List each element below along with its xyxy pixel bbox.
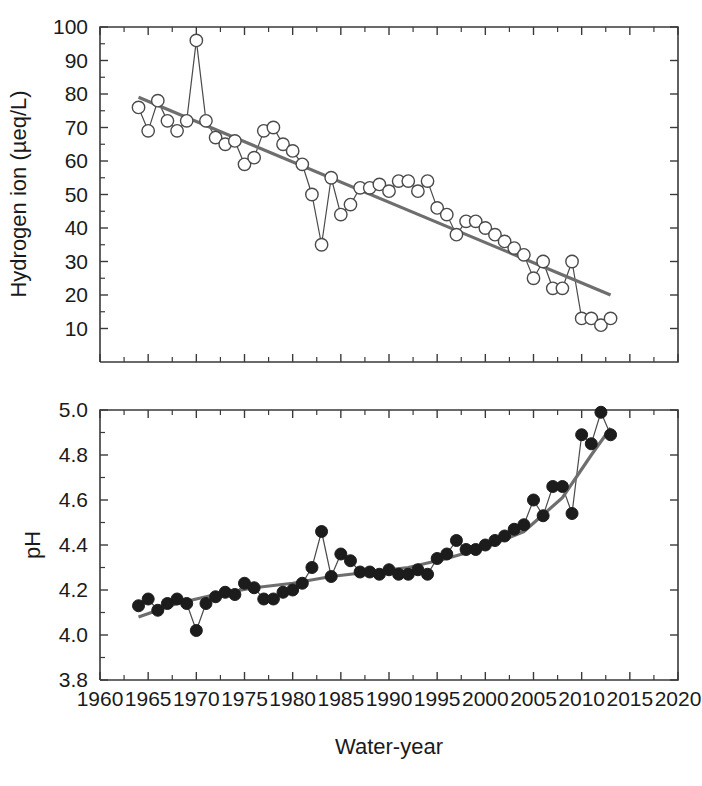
- y-tick-label: 5.0: [59, 398, 88, 421]
- x-tick-label: 1965: [125, 687, 172, 710]
- y-tick-label: 100: [53, 15, 88, 38]
- y-tick-label: 4.8: [59, 443, 88, 466]
- data-point-marker: [556, 481, 568, 493]
- y-tick-label: 90: [65, 49, 88, 72]
- y-tick-label: 4.0: [59, 623, 88, 646]
- y-tick-label: 20: [65, 283, 88, 306]
- x-tick-label: 1970: [173, 687, 220, 710]
- data-point-marker: [595, 406, 607, 418]
- data-point-marker: [527, 272, 539, 284]
- trend-bottom: [139, 428, 611, 617]
- data-point-marker: [537, 255, 549, 267]
- data-point-marker: [566, 508, 578, 520]
- x-tick-label: 2010: [558, 687, 605, 710]
- data-point-marker: [306, 562, 318, 574]
- data-point-marker: [537, 510, 549, 522]
- data-point-marker: [576, 429, 588, 441]
- data-point-marker: [325, 172, 337, 184]
- x-tick-label: 2020: [655, 687, 702, 710]
- data-point-marker: [296, 158, 308, 170]
- data-point-marker: [296, 577, 308, 589]
- trend-line: [139, 428, 611, 617]
- axis-frame: [100, 410, 678, 680]
- data-point-marker: [441, 548, 453, 560]
- panel-frame-bottom: [100, 410, 678, 680]
- data-point-marker: [181, 115, 193, 127]
- x-tick-label: 1995: [414, 687, 461, 710]
- data-point-marker: [421, 175, 433, 187]
- data-point-marker: [556, 282, 568, 294]
- data-point-marker: [200, 115, 212, 127]
- data-point-marker: [585, 438, 597, 450]
- data-point-marker: [248, 582, 260, 594]
- data-point-marker: [344, 198, 356, 210]
- x-tick-label: 1975: [221, 687, 268, 710]
- y-tick-label: 10: [65, 317, 88, 340]
- y-tick-label: 40: [65, 216, 88, 239]
- markers-bottom: [133, 406, 617, 636]
- data-point-marker: [181, 598, 193, 610]
- data-point-marker: [190, 34, 202, 46]
- y-axis-title-top: Hydrogen ion (µeq/L): [6, 90, 31, 297]
- y-tick-label: 70: [65, 116, 88, 139]
- y-axis-title-bottom: pH: [20, 531, 45, 559]
- panel-bottom: 3.84.04.24.44.64.85.01960196519701975198…: [59, 398, 702, 710]
- y-tick-label: 4.4: [59, 533, 89, 556]
- figure-container: 1020304050607080901003.84.04.24.44.64.85…: [0, 0, 702, 786]
- x-tick-label: 1980: [269, 687, 316, 710]
- y-tick-label: 50: [65, 183, 88, 206]
- markers-top: [132, 34, 616, 331]
- y-tick-label: 60: [65, 149, 88, 172]
- data-point-marker: [441, 208, 453, 220]
- x-tick-label: 1960: [77, 687, 124, 710]
- data-point-marker: [566, 255, 578, 267]
- data-point-marker: [229, 135, 241, 147]
- data-point-marker: [518, 519, 530, 531]
- data-point-marker: [402, 175, 414, 187]
- y-tick-label: 30: [65, 250, 88, 273]
- data-point-marker: [412, 185, 424, 197]
- data-point-marker: [152, 95, 164, 107]
- data-point-marker: [605, 429, 617, 441]
- data-point-marker: [306, 188, 318, 200]
- data-point-marker: [450, 229, 462, 241]
- data-point-marker: [267, 121, 279, 133]
- data-point-marker: [383, 185, 395, 197]
- y-tick-label: 4.2: [59, 578, 88, 601]
- data-point-marker: [132, 101, 144, 113]
- x-tick-label: 1990: [366, 687, 413, 710]
- x-axis-bottom: 1960196519701975198019851990199520002005…: [77, 410, 702, 710]
- data-point-marker: [142, 593, 154, 605]
- data-point-marker: [335, 208, 347, 220]
- data-point-marker: [422, 568, 434, 580]
- x-axis-title: Water-year: [335, 734, 443, 759]
- data-point-marker: [316, 526, 328, 538]
- data-point-marker: [286, 145, 298, 157]
- data-point-marker: [248, 151, 260, 163]
- data-point-marker: [171, 125, 183, 137]
- data-point-marker: [518, 249, 530, 261]
- data-point-marker: [315, 239, 327, 251]
- x-tick-label: 2005: [510, 687, 557, 710]
- y-tick-label: 80: [65, 82, 88, 105]
- x-tick-label: 2015: [606, 687, 653, 710]
- data-point-marker: [528, 494, 540, 506]
- y-tick-label: 4.6: [59, 488, 88, 511]
- panel-top: 102030405060708090100: [53, 15, 678, 362]
- x-tick-label: 2000: [462, 687, 509, 710]
- two-panel-timeseries-chart: 1020304050607080901003.84.04.24.44.64.85…: [0, 0, 702, 786]
- data-point-marker: [450, 535, 462, 547]
- data-point-marker: [190, 625, 202, 637]
- x-tick-label: 1985: [317, 687, 364, 710]
- data-point-marker: [344, 555, 356, 567]
- data-point-marker: [161, 115, 173, 127]
- data-point-marker: [142, 125, 154, 137]
- data-point-marker: [229, 589, 241, 601]
- data-point-marker: [604, 312, 616, 324]
- data-point-marker: [325, 571, 337, 583]
- y-axis-top: 102030405060708090100: [53, 15, 678, 340]
